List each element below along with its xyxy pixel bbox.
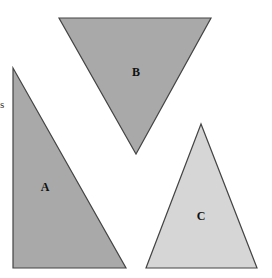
triangles-diagram: A B C (0, 0, 272, 278)
triangle-c-label: C (197, 209, 206, 223)
triangle-b-label: B (132, 65, 140, 79)
triangle-a-label: A (41, 180, 50, 194)
triangle-b (59, 18, 211, 154)
triangle-c (146, 124, 257, 268)
edge-label: s (0, 98, 4, 110)
